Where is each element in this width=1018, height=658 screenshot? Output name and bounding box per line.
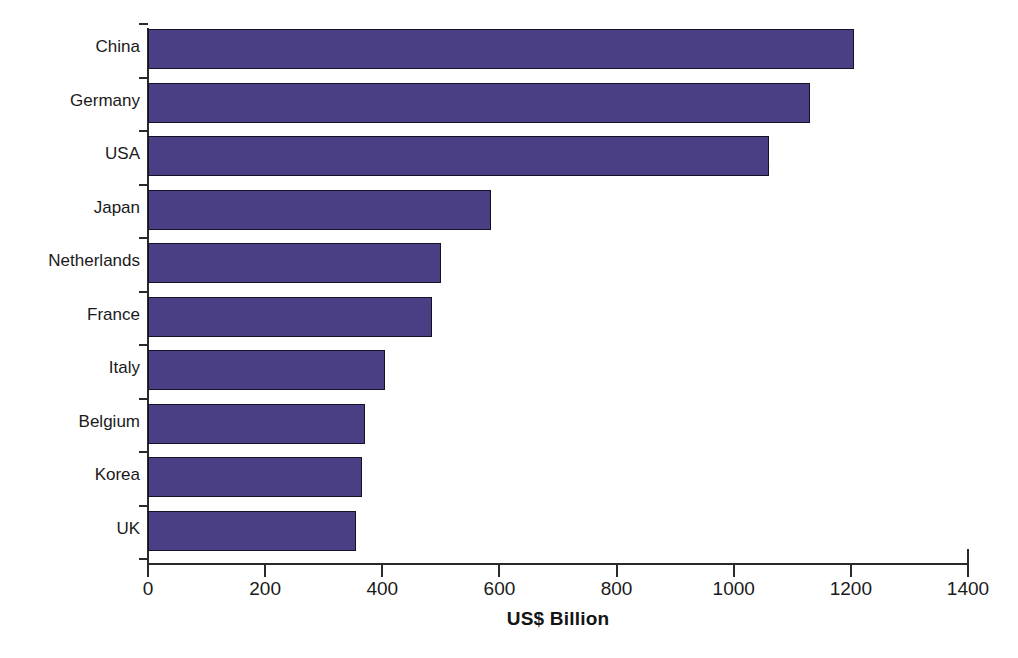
category-label-italy: Italy bbox=[0, 358, 140, 378]
x-axis-tick-label: 200 bbox=[205, 578, 325, 600]
x-axis-tick-label: 400 bbox=[322, 578, 442, 600]
bar-korea[interactable] bbox=[148, 457, 362, 497]
bar-row: UK bbox=[0, 511, 1018, 551]
horizontal-bar-chart: US$ Billion ChinaGermanyUSAJapanNetherla… bbox=[0, 0, 1018, 658]
bar-belgium[interactable] bbox=[148, 404, 365, 444]
x-axis-tick-label: 1400 bbox=[908, 578, 1018, 600]
x-axis-tick-label: 1000 bbox=[674, 578, 794, 600]
category-label-netherlands: Netherlands bbox=[0, 251, 140, 271]
x-axis-tick bbox=[264, 564, 266, 577]
bar-netherlands[interactable] bbox=[148, 243, 441, 283]
x-axis-tick-label: 1200 bbox=[791, 578, 911, 600]
category-label-korea: Korea bbox=[0, 465, 140, 485]
x-axis-tick bbox=[616, 564, 618, 577]
y-axis-tick bbox=[139, 130, 148, 132]
y-axis-tick bbox=[139, 505, 148, 507]
x-axis-tick bbox=[733, 564, 735, 577]
y-axis-tick bbox=[139, 237, 148, 239]
x-axis-tick-label: 600 bbox=[439, 578, 559, 600]
bar-japan[interactable] bbox=[148, 190, 491, 230]
x-axis-tick-label: 0 bbox=[88, 578, 208, 600]
x-axis-tick bbox=[147, 564, 149, 577]
y-axis-tick bbox=[139, 23, 148, 25]
bar-row: China bbox=[0, 29, 1018, 69]
category-label-belgium: Belgium bbox=[0, 412, 140, 432]
x-axis-right-cap bbox=[967, 549, 969, 564]
category-label-france: France bbox=[0, 305, 140, 325]
bar-row: Netherlands bbox=[0, 243, 1018, 283]
x-axis-tick bbox=[381, 564, 383, 577]
bar-row: Belgium bbox=[0, 404, 1018, 444]
category-label-uk: UK bbox=[0, 519, 140, 539]
y-axis-tick bbox=[139, 451, 148, 453]
bar-china[interactable] bbox=[148, 29, 854, 69]
bar-row: Korea bbox=[0, 457, 1018, 497]
category-label-usa: USA bbox=[0, 144, 140, 164]
y-axis-tick bbox=[139, 77, 148, 79]
y-axis-tick bbox=[139, 398, 148, 400]
category-label-japan: Japan bbox=[0, 198, 140, 218]
bar-row: Japan bbox=[0, 190, 1018, 230]
category-label-germany: Germany bbox=[0, 91, 140, 111]
y-axis-tick bbox=[139, 344, 148, 346]
bar-france[interactable] bbox=[148, 297, 432, 337]
y-axis-tick bbox=[139, 184, 148, 186]
x-axis-tick bbox=[498, 564, 500, 577]
bar-italy[interactable] bbox=[148, 350, 385, 390]
y-axis-tick bbox=[139, 291, 148, 293]
category-label-china: China bbox=[0, 37, 140, 57]
y-axis-tick bbox=[139, 558, 148, 560]
x-axis-tick-label: 800 bbox=[557, 578, 677, 600]
bar-germany[interactable] bbox=[148, 83, 810, 123]
x-axis-line bbox=[148, 563, 969, 565]
x-axis-tick bbox=[967, 564, 969, 577]
bar-row: France bbox=[0, 297, 1018, 337]
x-axis-tick bbox=[850, 564, 852, 577]
x-axis-title: US$ Billion bbox=[148, 608, 968, 630]
bar-usa[interactable] bbox=[148, 136, 769, 176]
bar-row: Germany bbox=[0, 83, 1018, 123]
bar-uk[interactable] bbox=[148, 511, 356, 551]
bar-row: USA bbox=[0, 136, 1018, 176]
bar-row: Italy bbox=[0, 350, 1018, 390]
